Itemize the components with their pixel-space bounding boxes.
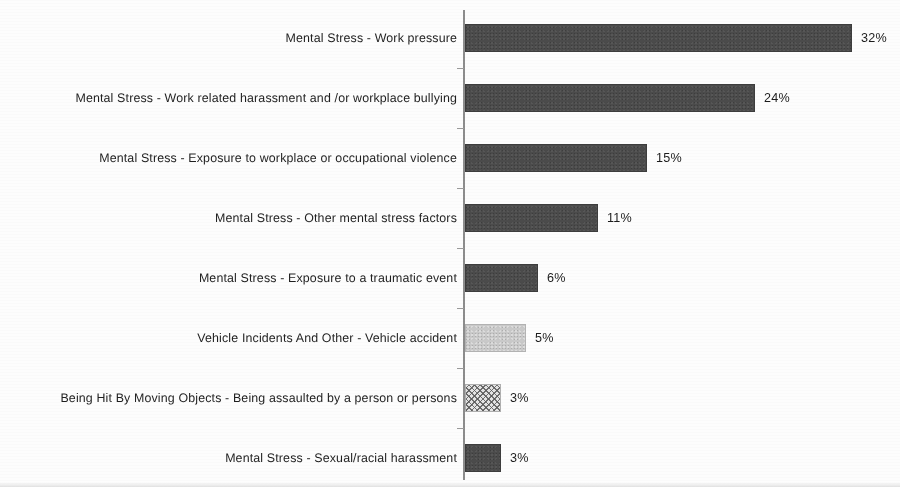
- bar-and-value: 32%: [465, 24, 887, 52]
- axis-tick: [457, 308, 464, 309]
- bar-value-label: 11%: [607, 211, 632, 225]
- category-label: Mental Stress - Other mental stress fact…: [215, 211, 457, 225]
- bar-row: Mental Stress - Work related harassment …: [0, 68, 900, 128]
- bar-value-label: 32%: [861, 31, 887, 45]
- category-label: Mental Stress - Exposure to workplace or…: [99, 151, 457, 165]
- bar: [465, 144, 647, 172]
- bar-row: Mental Stress - Exposure to workplace or…: [0, 128, 900, 188]
- bar: [465, 264, 538, 292]
- bar: [465, 204, 598, 232]
- bar-row: Mental Stress - Exposure to a traumatic …: [0, 248, 900, 308]
- bar-value-label: 24%: [764, 91, 790, 105]
- bar-value-label: 5%: [535, 331, 554, 345]
- bar-and-value: 15%: [465, 144, 682, 172]
- bar-row: Mental Stress - Sexual/racial harassment…: [0, 428, 900, 487]
- bar-chart: Mental Stress - Work pressure32%Mental S…: [0, 0, 900, 487]
- bar-value-label: 3%: [510, 391, 529, 405]
- category-label: Being Hit By Moving Objects - Being assa…: [60, 391, 457, 405]
- category-label: Mental Stress - Exposure to a traumatic …: [199, 271, 457, 285]
- bar-value-label: 3%: [510, 451, 529, 465]
- axis-tick: [457, 188, 464, 189]
- bar-and-value: 6%: [465, 264, 566, 292]
- bar-row: Mental Stress - Work pressure32%: [0, 8, 900, 68]
- bar-row: Being Hit By Moving Objects - Being assa…: [0, 368, 900, 428]
- bar: [465, 384, 501, 412]
- bar: [465, 324, 526, 352]
- bar-row: Vehicle Incidents And Other - Vehicle ac…: [0, 308, 900, 368]
- bar: [465, 84, 755, 112]
- axis-tick: [457, 68, 464, 69]
- bar-and-value: 3%: [465, 384, 529, 412]
- bar-and-value: 3%: [465, 444, 529, 472]
- axis-tick: [457, 428, 464, 429]
- category-label: Mental Stress - Work pressure: [286, 31, 457, 45]
- category-label: Vehicle Incidents And Other - Vehicle ac…: [197, 331, 457, 345]
- axis-tick: [457, 368, 464, 369]
- axis-tick: [457, 128, 464, 129]
- bar: [465, 24, 852, 52]
- bar-row: Mental Stress - Other mental stress fact…: [0, 188, 900, 248]
- category-label: Mental Stress - Sexual/racial harassment: [225, 451, 457, 465]
- category-label: Mental Stress - Work related harassment …: [75, 91, 457, 105]
- bar-value-label: 15%: [656, 151, 682, 165]
- bar: [465, 444, 501, 472]
- bar-value-label: 6%: [547, 271, 566, 285]
- bar-and-value: 24%: [465, 84, 790, 112]
- bar-and-value: 11%: [465, 204, 632, 232]
- axis-tick: [457, 248, 464, 249]
- bar-and-value: 5%: [465, 324, 554, 352]
